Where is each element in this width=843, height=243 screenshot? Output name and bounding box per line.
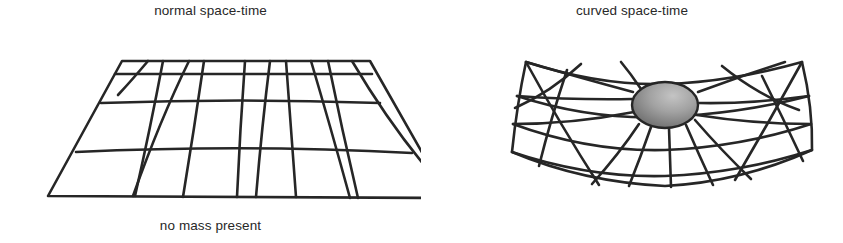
grid-crease-line — [256, 61, 270, 197]
grid-radial-line — [697, 115, 811, 124]
grid-column-line — [286, 61, 296, 197]
panel-left-subtitle: no mass present — [0, 218, 421, 233]
grid-crease-line — [133, 61, 189, 196]
curved-spacetime-grid — [421, 0, 843, 243]
grid-sweep-line — [539, 70, 567, 166]
grid-concentric-line — [512, 150, 812, 176]
grid-column-line — [183, 61, 204, 197]
grid-sweep-line — [762, 76, 803, 161]
grid-crease-line — [311, 61, 350, 198]
flat-spacetime-grid — [0, 0, 421, 243]
grid-crease-line — [352, 61, 421, 172]
grid-radial-line — [513, 112, 634, 124]
grid-column-line — [237, 61, 245, 197]
grid-row-line — [76, 148, 412, 153]
panel-curved-spacetime: curved space-time — [421, 0, 843, 243]
spacetime-figure: normal space-time — [0, 0, 843, 243]
grid-radial-line — [669, 128, 671, 187]
grid-row-line — [101, 101, 380, 104]
panel-normal-spacetime: normal space-time — [0, 0, 421, 243]
massive-body — [632, 82, 698, 128]
grid-radial-line — [621, 62, 641, 89]
grid-crease-line — [118, 61, 148, 95]
flat-grid-lines — [48, 61, 421, 198]
grid-radial-line — [698, 62, 785, 92]
